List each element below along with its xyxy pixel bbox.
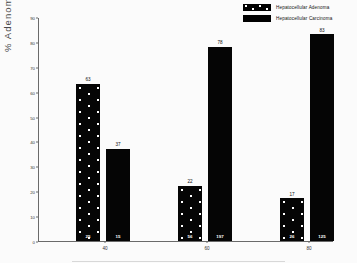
bar-value-label-adenoma-60: 22 <box>187 179 192 184</box>
y-tick-40: 40 <box>30 140 35 145</box>
y-tick-70: 70 <box>30 65 35 70</box>
legend-label-adenoma: Hepatocellular Adenoma <box>276 4 329 11</box>
bar-adenoma-40: 63 25 <box>76 84 100 241</box>
y-tick-mark-80 <box>36 42 39 43</box>
bar-base-label-adenoma-40: 25 <box>86 234 91 239</box>
y-tick-30: 30 <box>30 165 35 170</box>
bar-carcinoma-60: 78 197 <box>208 47 232 241</box>
bar-value-label-adenoma-80: 17 <box>289 192 294 197</box>
y-tick-mark-40 <box>36 142 39 143</box>
bar-chart: Hepatocellular Adenoma Hepatocellular Ca… <box>0 0 357 263</box>
legend-item-adenoma: Hepatocellular Adenoma <box>243 3 332 11</box>
y-tick-50: 50 <box>30 115 35 120</box>
y-axis-line <box>38 18 39 242</box>
bar-adenoma-80: 17 26 <box>280 198 304 240</box>
x-axis-line <box>38 241 333 242</box>
bar-value-label-adenoma-40: 63 <box>85 77 90 82</box>
footer-divider <box>72 261 285 262</box>
bar-value-label-carcinoma-60: 78 <box>217 40 222 45</box>
y-tick-mark-10 <box>36 217 39 218</box>
y-tick-mark-20 <box>36 192 39 193</box>
bar-adenoma-60: 22 56 <box>178 186 202 241</box>
y-tick-mark-50 <box>36 117 39 118</box>
y-tick-mark-30 <box>36 167 39 168</box>
bar-value-label-carcinoma-40: 37 <box>115 142 120 147</box>
y-tick-60: 60 <box>30 90 35 95</box>
x-tick-mark-80 <box>309 241 310 244</box>
bar-carcinoma-80: 83 125 <box>310 34 334 241</box>
y-tick-90: 90 <box>30 16 35 21</box>
y-tick-mark-70 <box>36 67 39 68</box>
x-tick-mark-60 <box>207 241 208 244</box>
y-tick-mark-0 <box>36 242 39 243</box>
y-axis-title: % Adenomas to Carcinomas <box>2 0 13 52</box>
y-tick-mark-90 <box>36 18 39 19</box>
y-tick-80: 80 <box>30 40 35 45</box>
y-tick-20: 20 <box>30 190 35 195</box>
bar-base-label-adenoma-60: 56 <box>188 234 193 239</box>
bar-group-40: 63 25 37 15 40 <box>76 17 134 241</box>
legend-swatch-dotted-icon <box>243 4 271 11</box>
plot-area: 90 80 70 60 50 40 30 20 10 0 63 25 37 15 <box>38 18 333 242</box>
bar-group-80: 17 26 83 125 80 <box>280 17 338 241</box>
bar-group-60: 22 56 78 197 60 <box>178 17 236 241</box>
bar-base-label-adenoma-80: 26 <box>290 234 295 239</box>
x-tick-label-60: 60 <box>204 246 209 251</box>
bar-base-label-carcinoma-80: 125 <box>318 234 325 239</box>
bar-value-label-carcinoma-80: 83 <box>319 28 324 33</box>
y-tick-mark-60 <box>36 92 39 93</box>
bar-carcinoma-40: 37 15 <box>106 149 130 241</box>
bar-base-label-carcinoma-60: 197 <box>216 234 223 239</box>
y-tick-10: 10 <box>30 215 35 220</box>
x-tick-mark-40 <box>105 241 106 244</box>
bar-base-label-carcinoma-40: 15 <box>116 234 121 239</box>
x-tick-label-80: 80 <box>306 246 311 251</box>
x-tick-label-40: 40 <box>102 246 107 251</box>
